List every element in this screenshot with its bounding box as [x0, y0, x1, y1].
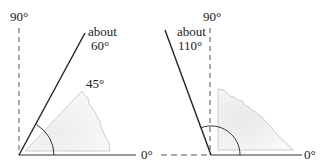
label-0-left: 0°	[141, 147, 153, 162]
label-about-110-line1: about	[177, 24, 206, 39]
label-0-right: 0°	[304, 147, 316, 162]
label-about-110-line2: 110°	[178, 38, 202, 53]
label-45: 45°	[86, 76, 104, 91]
label-about-60-line1: about	[88, 24, 117, 39]
angle-diagrams: 90° 0° 45° about 60° 90° 0° about 110°	[0, 0, 322, 167]
label-about-60-line2: 60°	[91, 38, 109, 53]
label-90-left: 90°	[10, 9, 28, 24]
label-90-right: 90°	[203, 9, 221, 24]
left-diagram: 90° 0° 45° about 60°	[10, 9, 153, 162]
right-diagram: 90° 0° about 110°	[161, 9, 316, 162]
shaded-region	[218, 89, 293, 150]
